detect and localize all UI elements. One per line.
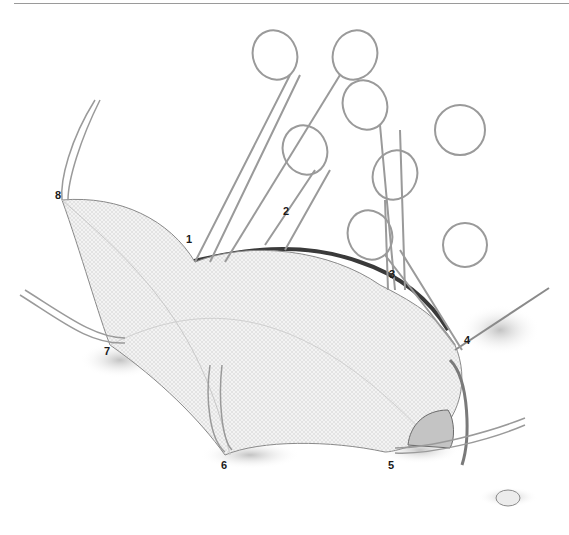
gauze-drape [62,199,462,455]
callout-label-4: 4 [464,335,470,346]
surgical-illustration [0,0,569,535]
callout-label-8: 8 [55,190,61,201]
callout-label-5: 5 [388,460,394,471]
callout-label-7: 7 [104,346,110,357]
callout-label-1: 1 [186,234,192,245]
tissue-nodule [496,490,520,506]
callout-label-3: 3 [389,269,395,280]
callout-label-6: 6 [221,460,227,471]
callout-label-2: 2 [283,206,289,217]
